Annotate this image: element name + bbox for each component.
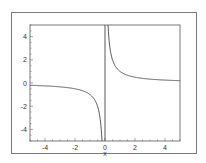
- x-tick-label: 4: [163, 144, 167, 151]
- y-tick-label: 0: [23, 80, 27, 87]
- x-tick-label: 2: [133, 144, 137, 151]
- y-tick-label: -4: [21, 126, 27, 133]
- x-tick-label: -4: [42, 144, 48, 151]
- y-tick-label: 4: [23, 33, 27, 40]
- chart-plot: -4-2024420-2-4 x: [0, 0, 206, 163]
- x-axis-label: x: [103, 150, 107, 157]
- y-tick-label: -2: [21, 103, 27, 110]
- y-tick-label: 2: [23, 56, 27, 63]
- x-tick-label: -2: [72, 144, 78, 151]
- tick-labels: -4-2024420-2-4: [21, 33, 167, 151]
- series-line-negative: [30, 85, 102, 141]
- series-line-positive: [108, 25, 180, 81]
